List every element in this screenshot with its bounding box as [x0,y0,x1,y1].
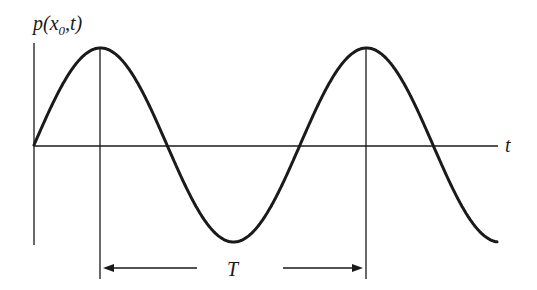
pressure-wave-diagram: p(x0,t) t T [0,0,537,290]
period-label: T [227,258,240,280]
sine-wave-curve [34,48,497,242]
arrowhead-right-icon [352,264,363,272]
x-axis-label: t [505,134,511,156]
y-axis-label: p(x0,t) [31,12,83,38]
arrowhead-left-icon [103,264,114,272]
